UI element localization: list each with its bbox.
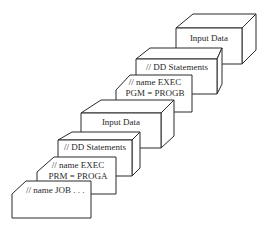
input-data-label-lower: Input Data (102, 117, 140, 127)
dd-statements-label-lower: // DD Statements (64, 142, 126, 152)
job-card: // name JOB . . . (12, 181, 91, 218)
input-data-label-upper: Input Data (190, 33, 228, 43)
exec-proga-line1: // name EXEC (52, 160, 105, 170)
dd-statements-label-upper: // DD Statements (146, 62, 208, 72)
job-line1: // name JOB . . . (26, 185, 85, 195)
exec-progb-line1: // name EXEC (129, 77, 182, 87)
exec-progb-line2: PGM = PROGB (125, 88, 184, 98)
exec-proga-line2: PRM = PROGA (48, 171, 108, 181)
jcl-stack-diagram: Input Data // DD Statements // name EXEC… (0, 0, 267, 232)
